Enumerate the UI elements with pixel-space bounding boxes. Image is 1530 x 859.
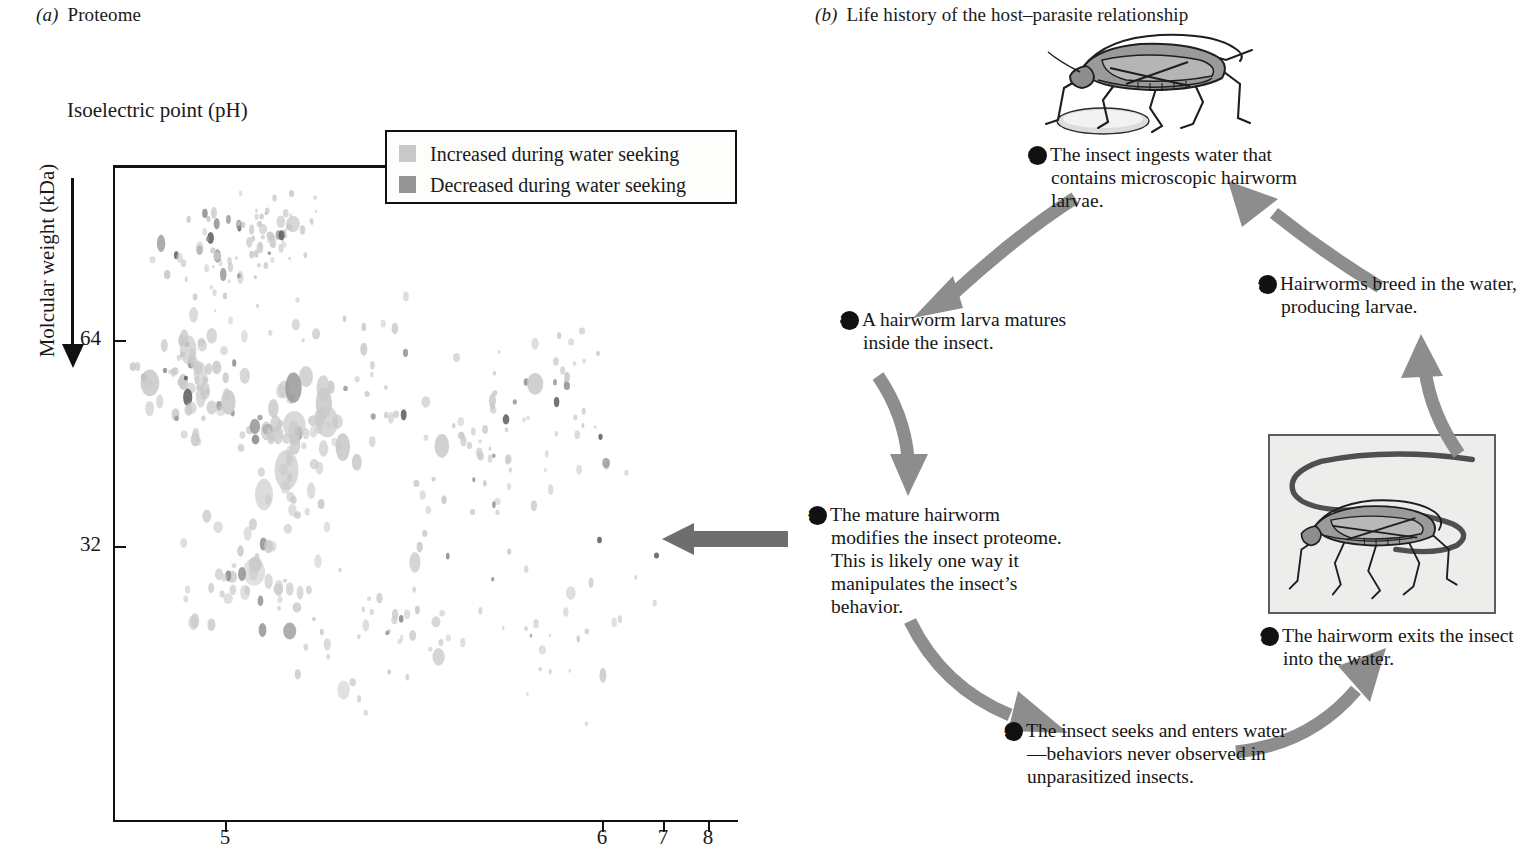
- gel-spot: [212, 361, 221, 374]
- gel-spot: [286, 582, 294, 595]
- gel-spot: [432, 477, 436, 482]
- gel-spot: [157, 235, 165, 252]
- gel-spot: [577, 635, 581, 642]
- gel-spot: [268, 251, 271, 255]
- gel-spot: [585, 629, 589, 635]
- gel-spot: [184, 376, 188, 381]
- gel-spot: [289, 190, 294, 197]
- gel-spot: [489, 447, 492, 451]
- gel-spot: [202, 510, 211, 523]
- gel-spot: [618, 615, 622, 623]
- gel-spot: [267, 431, 275, 444]
- legend-label-decreased: Decreased during water seeking: [430, 175, 686, 195]
- gel-spot: [343, 386, 348, 391]
- gel-spot-plot: [113, 165, 738, 820]
- gel-spot: [384, 412, 388, 419]
- gel-spot: [239, 191, 243, 197]
- gel-spot: [250, 419, 260, 434]
- gel-spot: [196, 385, 201, 391]
- gel-spot: [336, 433, 351, 461]
- gel-spot: [257, 242, 264, 253]
- gel-spot: [235, 256, 238, 260]
- gel-spot: [270, 242, 274, 247]
- gel-spot: [205, 363, 212, 375]
- gel-spot: [405, 674, 409, 681]
- gel-spot: [185, 585, 190, 593]
- gel-legend: Increased during water seeking Decreased…: [385, 130, 737, 204]
- x-tick-label: 5: [205, 825, 245, 850]
- gel-spot: [256, 304, 259, 308]
- gel-spot: [295, 297, 299, 303]
- gel-spot: [255, 214, 259, 220]
- gel-spot: [192, 428, 199, 441]
- gel-spot: [467, 442, 472, 449]
- step-5: 5The hairworm exits the insect into the …: [1260, 624, 1530, 670]
- panel-a-label: (a)Proteome: [36, 4, 141, 26]
- gel-spot: [492, 453, 496, 458]
- gel-spot: [401, 409, 407, 420]
- gel-spot: [553, 357, 559, 366]
- gel-spot: [362, 323, 367, 332]
- gel-spot: [237, 221, 240, 226]
- legend-swatch-decreased: [399, 176, 416, 193]
- gel-spot: [283, 578, 287, 582]
- gel-spot: [553, 379, 557, 386]
- gel-spot: [367, 596, 371, 601]
- gel-spot: [187, 216, 191, 223]
- gel-spot: [579, 328, 585, 335]
- gel-spot: [470, 509, 475, 515]
- gel-spot: [276, 384, 285, 399]
- gel-spot: [460, 435, 466, 447]
- gel-spot: [288, 257, 291, 260]
- gel-spot: [207, 328, 218, 343]
- gel-spot: [275, 450, 299, 490]
- gel-spot: [453, 353, 460, 362]
- gel-spot: [226, 215, 231, 224]
- y-tick-label: 64: [57, 326, 101, 351]
- gel-spot: [145, 379, 153, 388]
- gel-spot: [446, 634, 451, 641]
- gel-spot: [223, 593, 232, 604]
- gel-spot: [582, 358, 586, 364]
- gel-spot: [289, 224, 293, 231]
- gel-spot: [264, 574, 272, 589]
- gel-spot: [238, 567, 246, 581]
- gel-spot: [320, 629, 324, 635]
- gel-spot: [568, 338, 574, 345]
- gel-spot: [213, 521, 223, 533]
- gel-spot: [352, 454, 362, 471]
- gel-spot: [316, 388, 332, 418]
- gel-spot: [149, 256, 155, 263]
- gel-spot: [370, 361, 375, 370]
- y-tick-mark: [113, 546, 126, 548]
- proteome-link-arrow-icon: [660, 521, 788, 557]
- gel-spot: [276, 216, 285, 228]
- gel-spot: [206, 236, 209, 242]
- gel-spot: [581, 423, 584, 428]
- panel-b-life-history: (b)Life history of the host–parasite rel…: [790, 0, 1530, 859]
- gel-spot: [191, 613, 200, 628]
- gel-spot: [439, 639, 444, 646]
- gel-spot: [596, 351, 600, 356]
- gel-spot: [597, 537, 602, 544]
- gel-spot: [384, 385, 387, 389]
- gel-spot: [241, 330, 248, 343]
- gel-spot: [193, 294, 198, 301]
- gel-spot: [300, 225, 305, 235]
- gel-spot: [172, 367, 178, 375]
- gel-spot: [303, 644, 308, 651]
- x-axis-title: Isoelectric point (pH): [67, 98, 248, 123]
- gel-spot: [539, 645, 546, 654]
- step-1-text: The insect ingests water that contains m…: [1050, 144, 1297, 211]
- gel-spot: [212, 289, 216, 296]
- step-3-number: 3: [808, 506, 827, 525]
- gel-spot: [196, 241, 204, 255]
- legend-label-increased: Increased during water seeking: [430, 144, 679, 164]
- gel-spot: [279, 230, 285, 240]
- gel-spot: [554, 397, 560, 407]
- gel-spot: [568, 669, 571, 673]
- gel-spot: [240, 368, 250, 384]
- gel-spot: [424, 434, 429, 441]
- step-4-number: 4: [1004, 722, 1023, 741]
- gel-spot: [392, 609, 399, 620]
